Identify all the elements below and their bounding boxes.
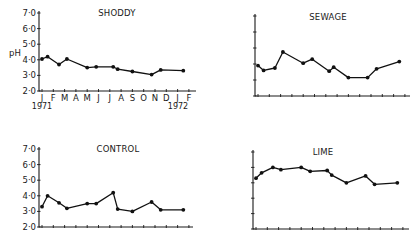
chart-panels: SHODDY2·03·04·05·06·07·0JFMAMJJASONDJFSE…: [22, 8, 410, 232]
data-point: [181, 208, 185, 212]
y-tick-label: 2·0: [22, 222, 36, 232]
data-point: [111, 191, 115, 195]
axes-sewage: [255, 14, 410, 96]
month-label: O: [140, 93, 147, 103]
month-label: S: [130, 93, 135, 103]
month-label: N: [152, 93, 158, 103]
data-point: [325, 169, 329, 173]
ph-figure: SHODDY2·03·04·05·06·07·0JFMAMJJASONDJFSE…: [0, 0, 420, 239]
data-point: [65, 206, 69, 210]
series-line-sewage: [258, 52, 399, 78]
y-tick-label: 6·0: [22, 160, 36, 170]
month-label: J: [96, 93, 100, 103]
axes-control: [39, 147, 193, 227]
data-point: [150, 200, 154, 204]
data-point: [116, 207, 120, 211]
y-tick-label: 5·0: [22, 39, 36, 49]
panel-lime: LIME: [251, 147, 409, 230]
data-point: [301, 61, 305, 65]
data-point: [347, 76, 351, 80]
data-point: [375, 67, 379, 71]
data-point: [308, 169, 312, 173]
data-point: [332, 65, 336, 69]
year-start-label: 1971: [32, 102, 52, 111]
panel-shoddy: SHODDY2·03·04·05·06·07·0JFMAMJJASONDJF: [22, 8, 196, 103]
data-point: [65, 57, 69, 61]
data-point: [373, 182, 377, 186]
data-point: [85, 202, 89, 206]
data-point: [131, 70, 135, 74]
data-point: [273, 66, 277, 70]
data-point: [271, 166, 275, 170]
month-label: A: [73, 93, 79, 103]
data-point: [281, 50, 285, 54]
data-point: [57, 201, 61, 205]
data-point: [131, 210, 135, 214]
y-axis-label: pH: [9, 48, 21, 58]
data-point: [256, 64, 260, 68]
panel-control: CONTROL2·03·04·05·06·07·0: [22, 144, 193, 232]
y-tick-label: 7·0: [22, 8, 36, 18]
data-point: [116, 67, 120, 71]
panel-title-shoddy: SHODDY: [98, 8, 136, 18]
month-label: M: [84, 93, 91, 103]
y-tick-label: 3·0: [22, 70, 36, 80]
data-point: [94, 65, 98, 69]
year-end-label: 1972: [168, 102, 188, 111]
data-point: [111, 65, 115, 69]
y-tick-label: 5·0: [22, 175, 36, 185]
data-point: [395, 181, 399, 185]
month-label: M: [61, 93, 68, 103]
data-point: [57, 63, 61, 67]
y-tick-label: 4·0: [22, 191, 36, 201]
data-point: [397, 60, 401, 64]
data-point: [181, 69, 185, 73]
y-tick-label: 6·0: [22, 24, 36, 34]
data-point: [299, 166, 303, 170]
data-point: [310, 57, 314, 61]
data-point: [150, 73, 154, 77]
y-tick-label: 7·0: [22, 144, 36, 154]
data-point: [279, 168, 283, 172]
y-tick-label: 2·0: [22, 86, 36, 96]
data-point: [159, 68, 163, 72]
data-point: [330, 173, 334, 177]
panel-sewage: SEWAGE: [253, 12, 410, 97]
data-point: [364, 174, 368, 178]
month-label: A: [118, 93, 124, 103]
panel-title-control: CONTROL: [97, 144, 140, 154]
data-point: [94, 202, 98, 206]
y-tick-label: 4·0: [22, 55, 36, 65]
data-point: [46, 55, 50, 59]
data-point: [40, 57, 44, 61]
data-point: [85, 66, 89, 70]
data-point: [46, 194, 50, 198]
panel-title-sewage: SEWAGE: [309, 12, 347, 22]
data-point: [345, 181, 349, 185]
panel-title-lime: LIME: [313, 147, 334, 157]
ph-chart-canvas: SHODDY2·03·04·05·06·07·0JFMAMJJASONDJFSE…: [0, 0, 420, 239]
data-point: [40, 205, 44, 209]
data-point: [254, 176, 258, 180]
month-label: J: [108, 93, 112, 103]
data-point: [260, 171, 264, 175]
axes-shoddy: [39, 11, 196, 91]
data-point: [366, 76, 370, 80]
data-point: [262, 69, 266, 73]
axes-lime: [253, 150, 409, 229]
data-point: [159, 208, 163, 212]
data-point: [327, 69, 331, 73]
y-tick-label: 3·0: [22, 206, 36, 216]
